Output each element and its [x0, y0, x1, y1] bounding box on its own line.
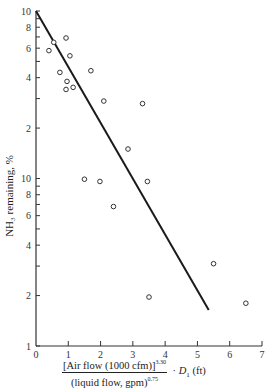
data-point	[65, 79, 70, 84]
y-tick-label: 10	[21, 173, 31, 184]
data-points	[47, 36, 249, 306]
y-tick-label: 6	[26, 210, 31, 221]
data-point	[111, 204, 116, 209]
data-point	[145, 179, 150, 184]
data-point	[147, 295, 152, 300]
data-point	[98, 179, 103, 184]
y-tick-label: 1	[26, 341, 31, 352]
data-point	[51, 40, 56, 45]
data-point	[211, 261, 216, 266]
data-point	[68, 54, 73, 59]
x-label-multiplier: · D1 (ft)	[173, 365, 206, 379]
y-tick-label: 4	[26, 72, 31, 83]
x-label-numerator: [Air flow (1000 cfm)]3.30	[62, 356, 167, 373]
fit-line	[36, 11, 209, 310]
data-point	[47, 48, 52, 53]
data-point	[82, 177, 87, 182]
y-tick-label: 10	[21, 6, 31, 17]
y-tick-label: 2	[26, 290, 31, 301]
data-point	[140, 101, 145, 106]
data-point	[89, 68, 94, 73]
y-tick-label: 2	[26, 123, 31, 134]
x-label-fraction: [Air flow (1000 cfm)]3.30 (liquid flow, …	[62, 356, 167, 389]
data-point	[102, 99, 107, 104]
data-point	[244, 301, 249, 306]
regression-line	[36, 11, 209, 310]
y-axis-label: NH₃ remaining, %	[3, 155, 15, 237]
data-point	[71, 85, 76, 90]
y-tick-label: 4	[26, 240, 31, 251]
y-tick-label: 8	[26, 22, 31, 33]
data-point	[58, 70, 63, 75]
x-axis-label: [Air flow (1000 cfm)]3.30 (liquid flow, …	[62, 356, 262, 389]
x-tick-label: 0	[34, 349, 39, 360]
y-tick-label: 8	[26, 189, 31, 200]
x-label-denominator: (liquid flow, gpm)0.75	[62, 373, 167, 389]
y-axis-ticks: 1246810246810	[21, 6, 40, 352]
data-point	[64, 87, 69, 92]
data-point	[126, 147, 131, 152]
y-tick-label: 6	[26, 43, 31, 54]
data-point	[64, 36, 69, 41]
